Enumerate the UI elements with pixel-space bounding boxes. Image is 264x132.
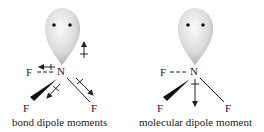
molecular-dipole-arrow-icon: [191, 79, 199, 106]
panel-molecular-dipole: N F F F molecular dipole moment: [139, 8, 252, 128]
lone-pair-dipole-arrow-icon: [80, 42, 88, 58]
fluorine-atom-label: F: [160, 66, 166, 78]
panel-bond-dipoles: N F F F bond dipole moments: [12, 8, 107, 128]
central-atom-label: N: [57, 65, 65, 77]
fluorine-atom-label: F: [23, 102, 29, 114]
wedge-bond: [163, 79, 190, 101]
nf3-dipole-diagram: N F F F bond dipole moments N F: [0, 0, 264, 132]
electron-dot: [201, 23, 205, 27]
bond-dipole-arrow-icon: [39, 64, 55, 70]
electron-dot: [68, 23, 72, 27]
lone-pair-lobe: [178, 8, 213, 65]
single-bond: [67, 78, 90, 102]
fluorine-atom-label: F: [91, 102, 97, 114]
fluorine-atom-label: F: [225, 102, 231, 114]
fluorine-atom-label: F: [157, 102, 163, 114]
electron-dot: [52, 23, 56, 27]
single-bond: [200, 78, 224, 102]
bond-dipole-arrow-icon: [76, 78, 93, 95]
electron-dot: [186, 23, 190, 27]
lone-pair-lobe: [45, 8, 80, 65]
caption-molecular-dipole-moment: molecular dipole moment: [139, 116, 252, 128]
central-atom-label: N: [190, 65, 198, 77]
wedge-bond: [30, 79, 57, 101]
fluorine-atom-label: F: [26, 66, 32, 78]
caption-bond-dipole-moments: bond dipole moments: [12, 116, 107, 128]
